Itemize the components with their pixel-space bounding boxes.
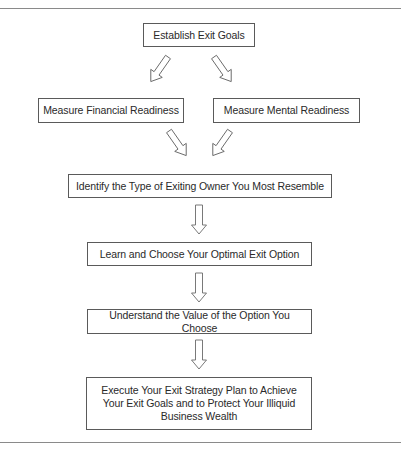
arrow-understand-to-execute-icon	[192, 340, 207, 369]
node-label: Measure Financial Readiness	[43, 104, 179, 117]
node-label: Establish Exit Goals	[153, 29, 244, 42]
node-establish-exit-goals: Establish Exit Goals	[143, 23, 255, 47]
node-understand-value: Understand the Value of the Option You C…	[87, 309, 312, 334]
arrow-financial-to-identify-icon	[163, 127, 192, 160]
node-learn-choose-option: Learn and Choose Your Optimal Exit Optio…	[87, 242, 312, 266]
node-identify-owner-type: Identify the Type of Exiting Owner You M…	[68, 174, 332, 198]
arrow-goals-to-financial-icon	[145, 53, 174, 86]
arrow-identify-to-learn-icon	[192, 205, 207, 234]
node-label: Learn and Choose Your Optimal Exit Optio…	[100, 248, 300, 261]
arrow-goals-to-mental-icon	[208, 53, 237, 86]
arrow-mental-to-identify-icon	[207, 127, 236, 160]
node-execute-exit-strategy: Execute Your Exit Strategy Plan to Achie…	[86, 377, 312, 430]
node-measure-financial-readiness: Measure Financial Readiness	[38, 98, 184, 123]
node-measure-mental-readiness: Measure Mental Readiness	[213, 98, 360, 123]
node-label: Understand the Value of the Option You C…	[91, 309, 308, 335]
node-label: Measure Mental Readiness	[224, 104, 349, 117]
node-label: Identify the Type of Exiting Owner You M…	[76, 180, 324, 193]
node-label: Execute Your Exit Strategy Plan to Achie…	[93, 384, 305, 423]
arrow-learn-to-understand-icon	[192, 273, 207, 302]
